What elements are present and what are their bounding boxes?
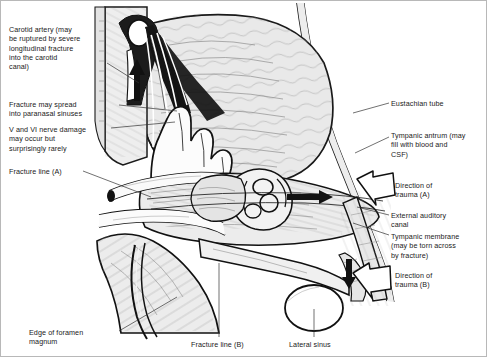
label-eustachian-tube: Eustachian tube bbox=[391, 99, 487, 108]
label-tympanic-antrum: Tympanic antrum (may fill with blood and… bbox=[391, 131, 487, 159]
label-fracture-line-b: Fracture line (B) bbox=[191, 340, 275, 349]
label-carotid-artery: Carotid artery (may be ruptured by sever… bbox=[9, 25, 121, 71]
label-fracture-line-a: Fracture line (A) bbox=[9, 167, 109, 176]
label-edge-of-foramen-magnum: Edge of foramen magnum bbox=[29, 328, 125, 347]
label-fracture-paranasal-sinuses: Fracture may spread into paranasal sinus… bbox=[9, 100, 125, 119]
label-external-auditory-canal: External auditory canal bbox=[391, 211, 487, 230]
label-direction-of-trauma-a: Direction of trauma (A) bbox=[395, 181, 485, 200]
figure-canvas: Carotid artery (may be ruptured by sever… bbox=[0, 0, 487, 357]
label-lateral-sinus: Lateral sinus bbox=[289, 340, 363, 349]
label-nerve-damage: V and VI nerve damage may occur but surp… bbox=[9, 125, 125, 153]
label-direction-of-trauma-b: Direction of trauma (B) bbox=[395, 271, 485, 290]
label-tympanic-membrane: Tympanic membrane (may be torn across by… bbox=[391, 232, 487, 260]
